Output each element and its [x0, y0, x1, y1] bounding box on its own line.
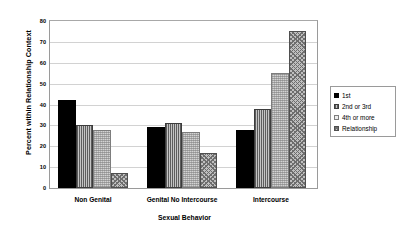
legend-label: 2nd or 3rd: [342, 103, 371, 110]
legend-item[interactable]: 2nd or 3rd: [334, 101, 392, 111]
bar-group: [139, 21, 228, 188]
bar: [254, 109, 272, 188]
bar: [58, 100, 76, 188]
legend-swatch-icon: [334, 126, 339, 131]
x-axis-tick-label: Genital No Intercourse: [147, 196, 218, 203]
y-axis-tick-label: 80: [6, 18, 46, 24]
x-axis-tick-label: Non Genital: [75, 196, 112, 203]
x-axis-title: Sexual Behavior: [0, 214, 369, 221]
y-axis-title: Percent within Relationship Context: [24, 3, 33, 183]
y-axis-tick-label: 60: [6, 60, 46, 66]
bar: [271, 73, 289, 188]
bar: [111, 173, 129, 188]
bar: [200, 153, 218, 188]
bar: [289, 31, 307, 188]
y-axis-tick-label: 40: [6, 102, 46, 108]
y-axis-tick-label: 20: [6, 143, 46, 149]
bar: [165, 123, 183, 188]
legend-item[interactable]: 4th or more: [334, 112, 392, 122]
legend-label: 1st: [342, 92, 351, 99]
bar: [93, 130, 111, 188]
bar-group: [228, 21, 317, 188]
legend-swatch-icon: [334, 93, 339, 98]
legend-item[interactable]: Relationship: [334, 123, 392, 133]
bar: [147, 127, 165, 188]
legend-swatch-icon: [334, 104, 339, 109]
bar: [182, 132, 200, 188]
chart-legend: 1st2nd or 3rd4th or moreRelationship: [330, 86, 396, 137]
y-axis-tick-label: 70: [6, 39, 46, 45]
legend-item[interactable]: 1st: [334, 90, 392, 100]
legend-label: Relationship: [342, 125, 377, 132]
legend-swatch-icon: [334, 115, 339, 120]
bar-chart: Percent within Relationship Context 0102…: [0, 0, 399, 239]
y-axis-tick-label: 30: [6, 122, 46, 128]
x-axis-tick-label: Intercourse: [253, 196, 289, 203]
bar: [76, 125, 94, 188]
bar: [236, 130, 254, 188]
y-axis-tick-label: 0: [6, 185, 46, 191]
y-axis-tick-label: 50: [6, 81, 46, 87]
bar-group: [50, 21, 139, 188]
bars-layer: [50, 21, 317, 188]
y-axis-tick-label: 10: [6, 164, 46, 170]
legend-label: 4th or more: [342, 114, 375, 121]
